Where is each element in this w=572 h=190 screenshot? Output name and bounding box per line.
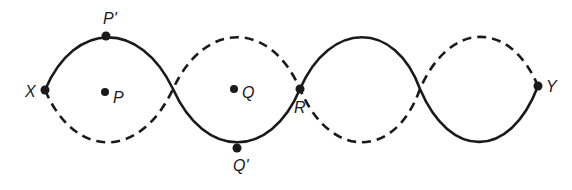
label-r: R	[294, 99, 306, 116]
point-r	[296, 85, 305, 94]
point-p-prime	[102, 32, 111, 41]
label-p: P	[113, 89, 124, 106]
point-q-prime	[233, 144, 242, 153]
label-q: Q	[242, 84, 254, 101]
label-q-prime: Q'	[233, 157, 249, 174]
point-y	[534, 82, 543, 91]
standing-wave-diagram: X Y P' P Q Q' R	[0, 0, 572, 190]
point-p	[101, 88, 109, 96]
label-p-prime: P'	[103, 10, 118, 27]
label-x: X	[24, 83, 37, 100]
label-y: Y	[546, 78, 558, 95]
point-x	[41, 86, 50, 95]
point-q	[230, 85, 238, 93]
